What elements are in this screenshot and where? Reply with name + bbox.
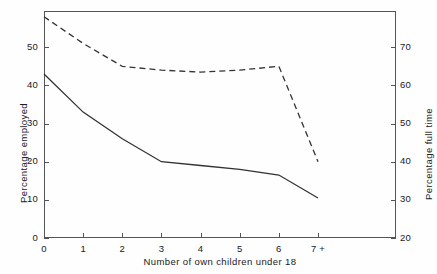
data-curves [0, 0, 437, 274]
series-percentage-employed-line [44, 74, 318, 198]
chart-figure: 0102030405020304050607001234567 + Percen… [0, 0, 437, 274]
right-axis-title: Percentage full time [423, 108, 434, 200]
bottom-axis-title: Number of own children under 18 [120, 256, 320, 267]
series-percentage-full-time-line [44, 17, 318, 162]
left-axis-title: Percentage employed [18, 103, 29, 203]
